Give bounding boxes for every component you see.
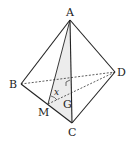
edge-ad xyxy=(70,20,115,72)
label-c: C xyxy=(68,126,76,139)
tetrahedron-diagram: A B C D M G x xyxy=(0,0,130,145)
edge-cd xyxy=(72,72,115,123)
label-angle-x: x xyxy=(54,87,59,97)
label-g: G xyxy=(63,98,72,111)
label-d: D xyxy=(117,66,126,79)
label-a: A xyxy=(65,6,75,19)
label-m: M xyxy=(38,106,49,119)
label-b: B xyxy=(9,78,17,91)
diagram-svg: A B C D M G x xyxy=(0,0,130,145)
